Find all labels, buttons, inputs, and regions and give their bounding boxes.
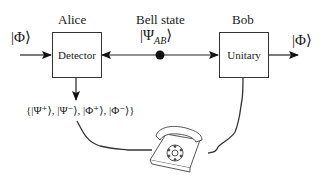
bell-basis-set: {|Ψ⁺⟩, |Ψ⁻⟩, |Φ⁺⟩, |Φ⁻⟩} [26, 105, 135, 116]
unitary-label: Unitary [227, 49, 261, 61]
phone-cord-bob [208, 78, 243, 153]
detector-label: Detector [58, 49, 96, 61]
telephone-icon [150, 126, 202, 172]
bell-state-title: Bell state [136, 13, 185, 26]
bell-state-ket: |ΨAB⟩ [140, 28, 172, 46]
detector-box: Detector [52, 32, 102, 78]
output-state-label: |Φ⟩ [292, 33, 312, 48]
alice-title: Alice [58, 13, 86, 26]
bob-title: Bob [232, 13, 254, 26]
input-state-label: |Φ⟩ [11, 30, 31, 45]
phone-cord-alice [77, 121, 152, 150]
bell-source-dot [156, 51, 165, 60]
unitary-box: Unitary [219, 32, 269, 78]
